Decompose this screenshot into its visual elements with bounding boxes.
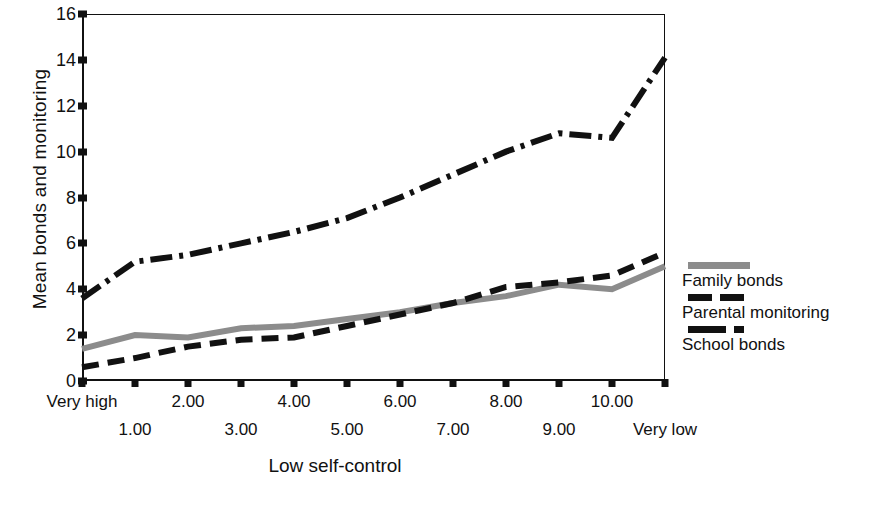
legend-label: Parental monitoring xyxy=(682,302,868,324)
dashed-black-line-swatch-icon xyxy=(688,294,750,301)
legend: Family bonds Parental monitoring School … xyxy=(682,262,868,358)
figure-chart: Mean bonds and monitoring 0246810121416 … xyxy=(0,0,870,507)
x-axis-tick-mark xyxy=(132,379,139,387)
dashdot-black-line-swatch-icon xyxy=(688,326,750,333)
x-axis-tick-label: 1.00 xyxy=(118,420,151,440)
x-axis-tick-label: 3.00 xyxy=(224,420,257,440)
series-line-school-bonds xyxy=(82,58,665,299)
legend-item-parental-monitoring: Parental monitoring xyxy=(682,294,868,324)
x-axis-tick-label: 9.00 xyxy=(542,420,575,440)
x-axis-tick-mark xyxy=(238,379,245,387)
legend-label: School bonds xyxy=(682,334,868,356)
x-axis-tick-mark xyxy=(556,379,563,387)
x-axis-tick-label: 10.00 xyxy=(591,392,634,412)
x-axis-tick-mark xyxy=(503,379,510,387)
x-axis-tick-mark xyxy=(662,379,669,387)
x-axis-tick-mark xyxy=(397,379,404,387)
figure-caption xyxy=(8,492,868,507)
x-axis-tick-label: 7.00 xyxy=(436,420,469,440)
series-line-parental-monitoring xyxy=(82,253,665,368)
x-axis-tick-mark xyxy=(79,379,86,387)
x-axis-tick-mark xyxy=(185,379,192,387)
x-axis-tick-label: 4.00 xyxy=(277,392,310,412)
legend-item-school-bonds: School bonds xyxy=(682,326,868,356)
x-axis-tick-mark xyxy=(291,379,298,387)
x-axis-tick-label: Very low xyxy=(633,420,697,440)
legend-item-family-bonds: Family bonds xyxy=(682,262,868,292)
legend-label: Family bonds xyxy=(682,270,868,292)
x-axis-tick-mark xyxy=(609,379,616,387)
x-axis-tick-mark xyxy=(450,379,457,387)
x-axis-tick-label: 2.00 xyxy=(171,392,204,412)
x-axis-tick-label: 8.00 xyxy=(489,392,522,412)
x-axis-tick-label: 6.00 xyxy=(383,392,416,412)
x-axis-tick-mark xyxy=(344,379,351,387)
x-axis-tick-label: Very high xyxy=(47,392,118,412)
solid-gray-line-swatch-icon xyxy=(688,262,750,269)
x-axis-tick-label: 5.00 xyxy=(330,420,363,440)
x-axis-title: Low self-control xyxy=(0,455,670,477)
